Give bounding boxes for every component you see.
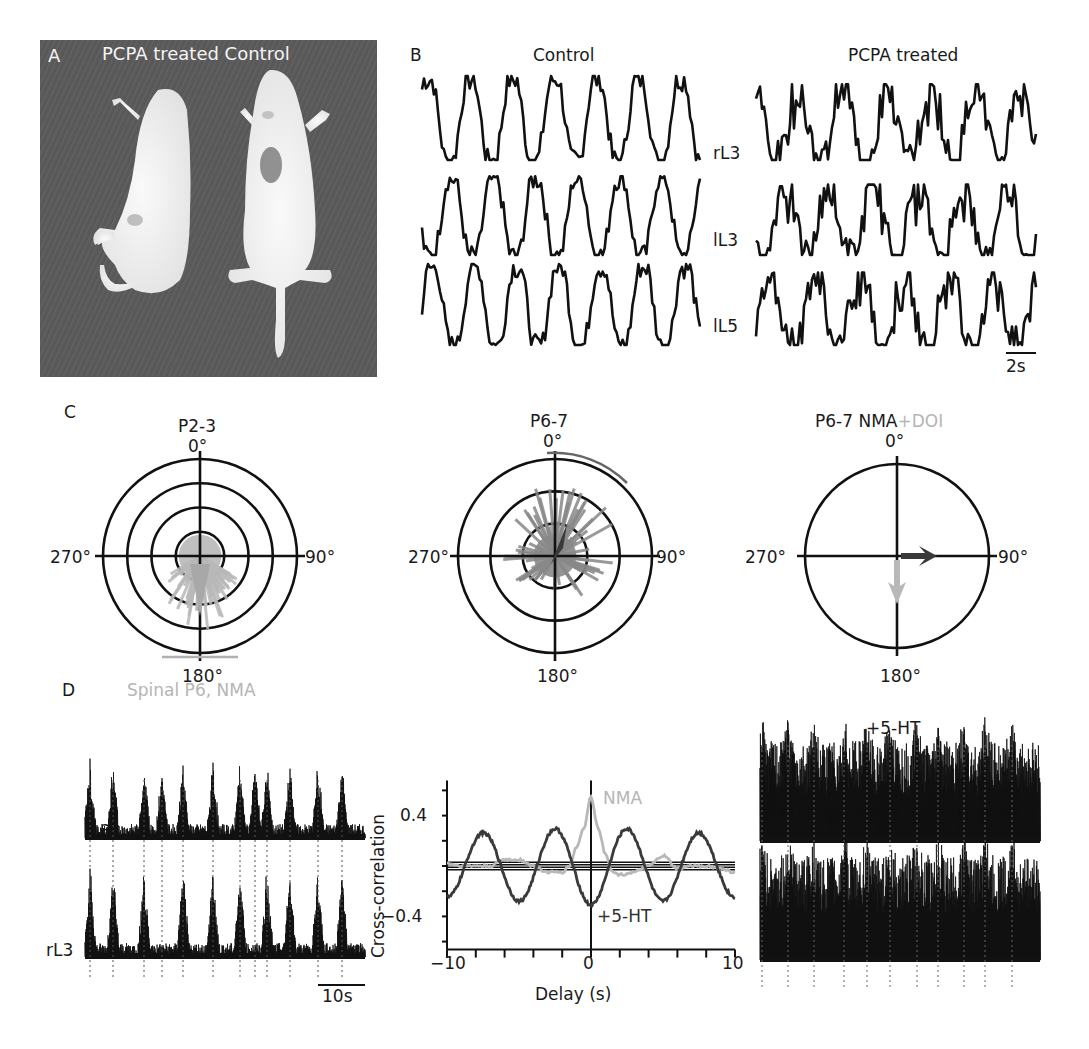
- xcorr-legend-nma: NMA: [603, 790, 642, 807]
- xcorr-xtick-10: 10: [722, 955, 744, 972]
- xcorr-ytick-neg0.4: −0.4: [381, 908, 422, 925]
- xcorr-xtick-neg10: −10: [430, 955, 466, 972]
- xcorr-legend-5ht: +5-HT: [597, 908, 651, 925]
- cross-correlation-chart: [0, 0, 1089, 1049]
- xcorr-xlabel: Delay (s): [535, 986, 611, 1003]
- xcorr-ytick-0.4: 0.4: [400, 807, 427, 824]
- xcorr-xtick-0: 0: [583, 955, 594, 972]
- xcorr-ylabel: Cross-correlation: [370, 814, 387, 958]
